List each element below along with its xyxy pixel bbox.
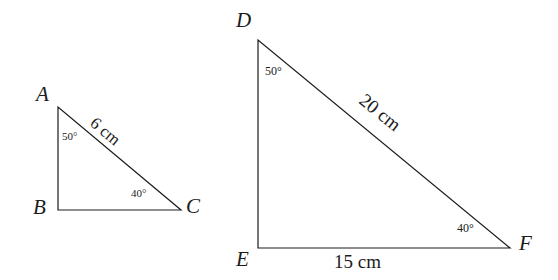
- triangles-svg: [0, 0, 558, 280]
- geometry-figure: A B C 50° 40° 6 cm D E F 50° 40° 20 cm 1…: [0, 0, 558, 280]
- vertex-label-b: B: [33, 197, 46, 218]
- angle-d-50: 50°: [265, 65, 282, 77]
- angle-c-40: 40°: [131, 188, 146, 199]
- angle-f-40: 40°: [457, 222, 474, 234]
- triangle-def-outline: [258, 40, 510, 248]
- triangle-abc-outline: [58, 107, 181, 210]
- triangle-abc-path: [58, 107, 181, 210]
- triangle-def-path: [258, 40, 510, 248]
- vertex-label-f: F: [519, 233, 532, 254]
- vertex-label-e: E: [236, 249, 249, 270]
- vertex-label-a: A: [36, 84, 49, 105]
- vertex-label-d: D: [236, 10, 251, 31]
- angle-a-50: 50°: [62, 131, 77, 142]
- vertex-label-c: C: [186, 196, 200, 217]
- side-ef-length: 15 cm: [334, 252, 381, 271]
